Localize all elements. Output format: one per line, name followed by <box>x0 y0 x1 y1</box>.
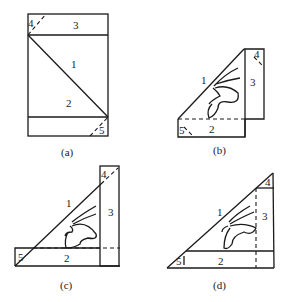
left-strip-top <box>15 248 100 266</box>
caption-c: (c) <box>60 279 73 292</box>
fold-edge-diagonal <box>178 49 244 119</box>
region-label-1: 1 <box>217 206 223 218</box>
region-label-2: 2 <box>66 97 72 109</box>
panel-d: 1 2 3 4 5 (d) <box>167 173 274 292</box>
butterfly-drawing <box>222 206 256 249</box>
region-label-1: 1 <box>66 197 72 209</box>
dashed-fold-5 <box>184 127 194 137</box>
caption-a: (a) <box>61 146 74 159</box>
caption-b: (b) <box>213 144 226 157</box>
region-label-3: 3 <box>108 206 114 218</box>
right-edge <box>273 173 274 268</box>
region-label-2: 2 <box>64 252 70 264</box>
region-label-5: 5 <box>176 255 182 267</box>
region-label-5: 5 <box>99 124 105 136</box>
region-label-3: 3 <box>262 210 268 222</box>
region-label-4: 4 <box>265 176 271 188</box>
region-label-5: 5 <box>179 124 185 136</box>
region-label-1: 1 <box>201 74 207 86</box>
region-label-2: 2 <box>218 255 224 267</box>
region-label-4: 4 <box>101 168 107 180</box>
paper-outline <box>28 14 108 136</box>
hypotenuse <box>167 173 273 268</box>
fold-edge-diagonal <box>15 184 101 266</box>
butterfly-drawing <box>65 206 96 248</box>
region-label-2: 2 <box>209 123 215 135</box>
panel-a: 4 3 1 2 5 (a) <box>28 14 108 159</box>
region-label-5: 5 <box>18 251 24 263</box>
region-label-4: 4 <box>28 17 34 29</box>
caption-d: (d) <box>213 279 226 292</box>
region-label-4: 4 <box>254 48 260 60</box>
folding-diagram: 4 3 1 2 5 (a) 1 2 3 4 5 (b) 1 2 3 4 5 <box>0 0 285 302</box>
region-label-3: 3 <box>73 19 79 31</box>
panel-b: 1 2 3 4 5 (b) <box>178 48 264 157</box>
butterfly-drawing <box>208 68 240 118</box>
region-label-1: 1 <box>71 58 77 70</box>
panel-c: 1 2 3 4 5 (c) <box>15 166 120 292</box>
region-label-3: 3 <box>250 76 256 88</box>
